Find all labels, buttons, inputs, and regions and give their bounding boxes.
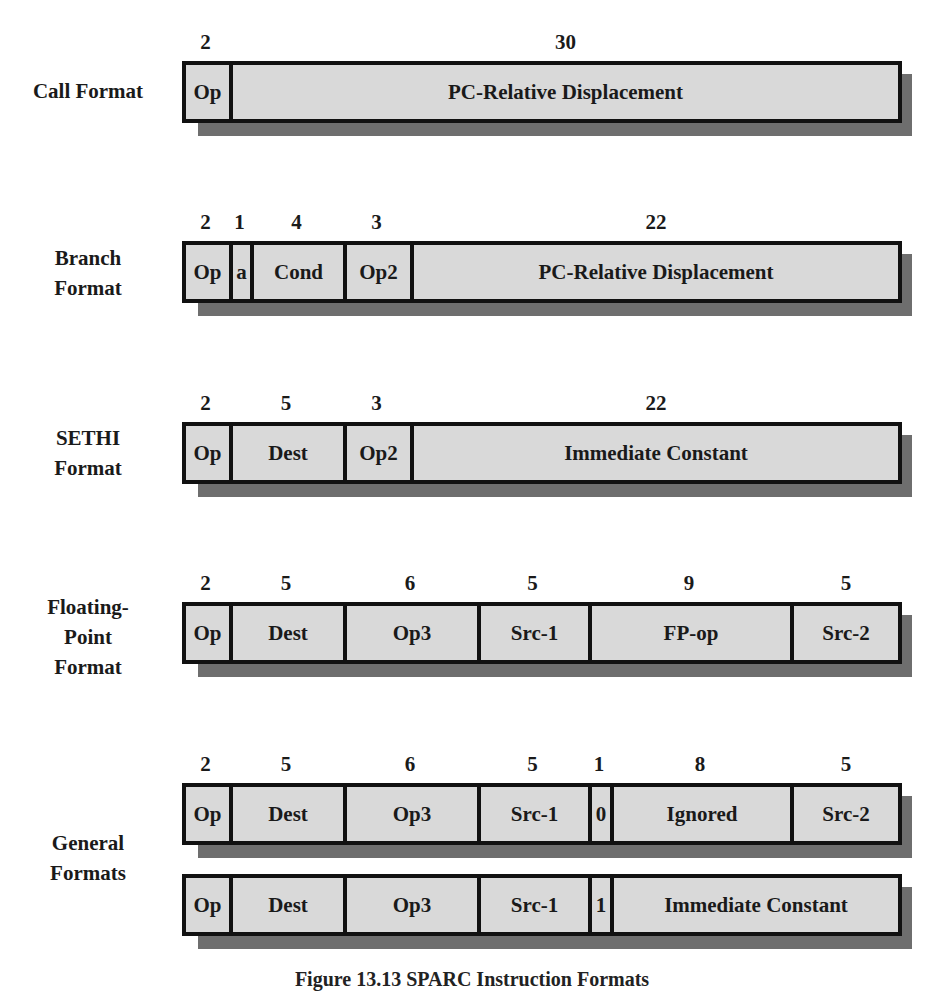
field-dest: Dest <box>233 606 347 660</box>
bit-count: 22 <box>410 389 902 417</box>
field-pc-relative-displacement: PC-Relative Displacement <box>414 245 898 299</box>
label-line: Call Format <box>20 76 156 106</box>
label-line: SETHI <box>20 423 156 453</box>
bit-count: 6 <box>343 569 477 597</box>
bit-count: 30 <box>229 28 902 56</box>
bit-count: 9 <box>588 569 790 597</box>
bit-widths: 214322 <box>182 208 902 236</box>
bit-widths: 25322 <box>182 389 902 417</box>
format-row: OpaCondOp2PC-Relative Displacement214322 <box>182 241 902 303</box>
instruction-box: OpDestOp2Immediate Constant <box>182 422 902 484</box>
label-call-format: Call Format <box>20 76 156 106</box>
bit-widths: 2565185 <box>182 750 902 778</box>
field-dest: Dest <box>233 787 347 841</box>
instruction-box: OpaCondOp2PC-Relative Displacement <box>182 241 902 303</box>
field-src-1: Src-1 <box>481 787 592 841</box>
field-pc-relative-displacement: PC-Relative Displacement <box>233 65 898 119</box>
bit-count: 2 <box>182 208 229 236</box>
format-row: OpPC-Relative Displacement230 <box>182 61 902 123</box>
bit-count: 1 <box>588 750 610 778</box>
figure-caption: Figure 13.13 SPARC Instruction Formats <box>0 968 944 991</box>
bit-count: 5 <box>790 750 902 778</box>
field-dest: Dest <box>233 426 347 480</box>
field-fp-op: FP-op <box>592 606 794 660</box>
bit-widths <box>182 841 902 869</box>
bit-count: 2 <box>182 569 229 597</box>
instruction-box: OpPC-Relative Displacement <box>182 61 902 123</box>
label-line: Formats <box>20 858 156 888</box>
field-op: Op <box>186 787 233 841</box>
format-row: OpDestOp2Immediate Constant25322 <box>182 422 902 484</box>
format-row: OpDestOp3Src-11Immediate Constant <box>182 874 902 936</box>
instruction-box: OpDestOp3Src-11Immediate Constant <box>182 874 902 936</box>
field-op: Op <box>186 245 233 299</box>
label-line: Point <box>20 622 156 652</box>
field-src-1: Src-1 <box>481 606 592 660</box>
bit-count: 8 <box>610 750 790 778</box>
instruction-box: OpDestOp3Src-10IgnoredSrc-2 <box>182 783 902 845</box>
bit-count: 1 <box>229 208 250 236</box>
label-line: Format <box>20 273 156 303</box>
bit-count: 5 <box>229 750 343 778</box>
bit-widths: 256595 <box>182 569 902 597</box>
field-0: 0 <box>592 787 614 841</box>
bit-count: 2 <box>182 389 229 417</box>
field-op: Op <box>186 878 233 932</box>
label-line: General <box>20 828 156 858</box>
field-1: 1 <box>592 878 614 932</box>
bit-count: 6 <box>343 750 477 778</box>
bit-count: 5 <box>790 569 902 597</box>
field-src-1: Src-1 <box>481 878 592 932</box>
format-row: OpDestOp3Src-1FP-opSrc-2256595 <box>182 602 902 664</box>
field-op3: Op3 <box>347 787 481 841</box>
label-floating-point-format: Floating- Point Format <box>20 592 156 682</box>
field-a: a <box>233 245 254 299</box>
bit-count: 5 <box>477 750 588 778</box>
bit-count: 2 <box>182 750 229 778</box>
bit-count: 5 <box>229 389 343 417</box>
field-dest: Dest <box>233 878 347 932</box>
label-general-formats: General Formats <box>20 828 156 888</box>
bit-count: 3 <box>343 208 410 236</box>
bit-widths: 230 <box>182 28 902 56</box>
format-row: OpDestOp3Src-10IgnoredSrc-22565185 <box>182 783 902 845</box>
field-src-2: Src-2 <box>794 606 898 660</box>
field-ignored: Ignored <box>614 787 794 841</box>
field-immediate-constant: Immediate Constant <box>414 426 898 480</box>
field-cond: Cond <box>254 245 347 299</box>
label-branch-format: Branch Format <box>20 243 156 303</box>
field-op3: Op3 <box>347 606 481 660</box>
field-op: Op <box>186 426 233 480</box>
bit-count: 5 <box>229 569 343 597</box>
bit-count: 4 <box>250 208 343 236</box>
bit-count: 22 <box>410 208 902 236</box>
field-op: Op <box>186 65 233 119</box>
field-immediate-constant: Immediate Constant <box>614 878 898 932</box>
field-src-2: Src-2 <box>794 787 898 841</box>
label-sethi-format: SETHI Format <box>20 423 156 483</box>
bit-count: 5 <box>477 569 588 597</box>
label-line: Format <box>20 453 156 483</box>
bit-count: 2 <box>182 28 229 56</box>
field-op2: Op2 <box>347 426 414 480</box>
bit-count: 3 <box>343 389 410 417</box>
label-line: Branch <box>20 243 156 273</box>
field-op: Op <box>186 606 233 660</box>
label-line: Floating- <box>20 592 156 622</box>
label-line: Format <box>20 652 156 682</box>
field-op2: Op2 <box>347 245 414 299</box>
field-op3: Op3 <box>347 878 481 932</box>
instruction-box: OpDestOp3Src-1FP-opSrc-2 <box>182 602 902 664</box>
